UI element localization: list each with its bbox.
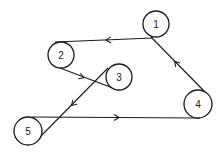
directed-graph-diagram: 12345: [0, 0, 223, 155]
node-5: 5: [14, 117, 42, 145]
nodes-layer: 12345: [14, 11, 212, 145]
edge-4-to-1: [151, 37, 204, 91]
edge-3-to-5: [39, 68, 108, 138]
node-label: 3: [116, 72, 122, 83]
edge-line: [151, 37, 204, 91]
edge-line: [55, 38, 153, 42]
edge-1-to-2: [55, 37, 153, 43]
node-2: 2: [48, 42, 74, 68]
node-label: 4: [195, 99, 201, 110]
node-label: 2: [58, 50, 64, 61]
node-1: 1: [143, 11, 169, 37]
node-3: 3: [106, 64, 132, 90]
edge-line: [32, 117, 200, 118]
node-label: 5: [25, 126, 31, 137]
node-4: 4: [184, 90, 212, 118]
node-label: 1: [153, 19, 159, 30]
edge-line: [39, 68, 108, 138]
